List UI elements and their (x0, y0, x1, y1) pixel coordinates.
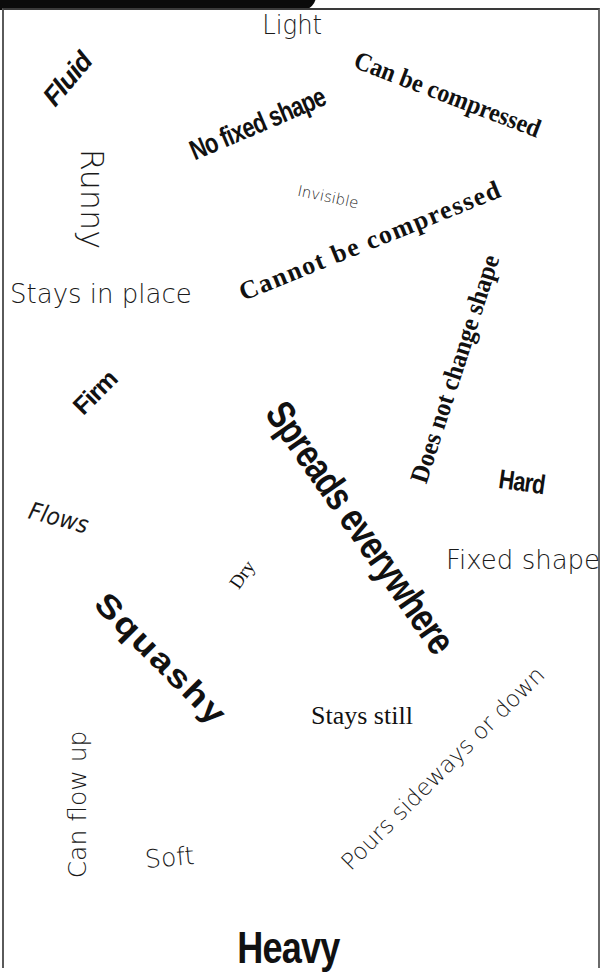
word-runny: Runny (76, 149, 108, 250)
word-soft: Soft (144, 843, 195, 872)
word-light: Light (262, 11, 322, 38)
word-stays-in-place: Stays in place (10, 281, 192, 307)
word-can-flow-up: Can flow up (65, 731, 90, 879)
word-heavy: Heavy (237, 926, 339, 970)
word-stays-still: Stays still (311, 703, 413, 729)
word-hard: Hard (497, 466, 546, 499)
word-fixed-shape: Fixed shape (446, 547, 600, 573)
